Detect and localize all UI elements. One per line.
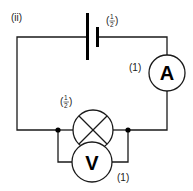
voltmeter-symbol: V [85, 152, 99, 174]
lamp-mark-label: ( 1 2 ) [60, 94, 72, 109]
svg-text:): ) [69, 96, 72, 107]
svg-text:2: 2 [110, 21, 114, 28]
svg-text:1: 1 [64, 94, 68, 101]
ammeter-mark-label: (1) [129, 62, 141, 73]
battery-cell [86, 13, 99, 60]
battery-short-plate [96, 27, 99, 47]
battery-long-plate [86, 13, 89, 60]
battery-mark-label: ( 1 2 ) [106, 13, 118, 28]
ammeter-symbol: A [160, 62, 174, 84]
junction-node-left [55, 127, 60, 132]
ammeter: A [149, 55, 185, 91]
circuit-diagram: (ii) ( 1 2 ) A (1) ( 1 [0, 0, 193, 191]
svg-text:): ) [115, 15, 118, 26]
svg-text:1: 1 [110, 13, 114, 20]
svg-text:2: 2 [64, 102, 68, 109]
voltmeter-mark-label: (1) [117, 172, 129, 183]
voltmeter: V [72, 142, 112, 182]
junction-node-right [125, 127, 130, 132]
part-label: (ii) [11, 12, 22, 23]
